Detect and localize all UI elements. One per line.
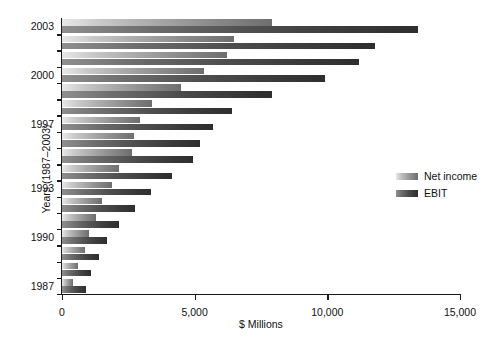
bar-ebit-1987 xyxy=(62,286,86,292)
y-axis-label-1990: 1990 xyxy=(31,231,54,243)
x-tick-15000 xyxy=(460,295,461,300)
y-tick-1988 xyxy=(57,278,62,279)
y-tick-2000 xyxy=(57,83,62,84)
y-axis-label-2000: 2000 xyxy=(31,69,54,81)
y-axis-label-2003: 2003 xyxy=(31,20,54,32)
bar-net-income-1994 xyxy=(62,165,119,171)
x-axis-title: $ Millions xyxy=(62,318,460,330)
y-tick-1994 xyxy=(57,180,62,181)
bar-net-income-2001 xyxy=(62,52,227,58)
legend-label-net-income: Net income xyxy=(424,170,477,182)
bar-ebit-2003 xyxy=(62,26,418,32)
bar-ebit-1988 xyxy=(62,270,91,276)
y-tick-1996 xyxy=(57,148,62,149)
bar-group-1998 xyxy=(62,100,460,114)
bar-group-2003 xyxy=(62,19,460,33)
bar-ebit-1993 xyxy=(62,189,151,195)
bar-ebit-1996 xyxy=(62,140,200,146)
y-tick-2002 xyxy=(57,50,62,51)
y-tick-2003 xyxy=(57,34,62,35)
x-tick-10000 xyxy=(327,295,328,300)
x-axis-label-15000: 15,000 xyxy=(444,306,476,318)
bar-ebit-1992 xyxy=(62,205,135,211)
y-axis-label-1987: 1987 xyxy=(31,280,54,292)
bar-net-income-1993 xyxy=(62,182,112,188)
legend-item-ebit: EBIT xyxy=(396,187,477,199)
bar-net-income-1999 xyxy=(62,84,181,90)
y-axis-label-1997: 1997 xyxy=(31,118,54,130)
bar-net-income-1991 xyxy=(62,214,96,220)
bar-net-income-1990 xyxy=(62,230,89,236)
bar-group-1995 xyxy=(62,149,460,163)
y-tick-2001 xyxy=(57,67,62,68)
bar-group-2000 xyxy=(62,68,460,82)
y-axis-title: Years (1987–2003) xyxy=(40,125,52,214)
bar-ebit-1991 xyxy=(62,221,119,227)
bar-net-income-2003 xyxy=(62,19,272,25)
bar-ebit-1990 xyxy=(62,237,107,243)
bar-ebit-1995 xyxy=(62,156,193,162)
bar-net-income-2002 xyxy=(62,36,234,42)
x-tick-0 xyxy=(62,295,63,300)
bar-group-1987 xyxy=(62,279,460,293)
y-tick-1998 xyxy=(57,115,62,116)
bar-group-2001 xyxy=(62,52,460,66)
plot-area: 200320001997199319901987 05,00010,00015,… xyxy=(62,18,460,294)
bar-ebit-1999 xyxy=(62,91,272,97)
y-tick-1997 xyxy=(57,132,62,133)
bar-ebit-1989 xyxy=(62,254,99,260)
x-axis-line xyxy=(61,294,461,295)
bar-ebit-2002 xyxy=(62,43,375,49)
legend-label-ebit: EBIT xyxy=(424,187,447,199)
y-tick-1991 xyxy=(57,229,62,230)
bar-group-2002 xyxy=(62,36,460,50)
y-tick-1990 xyxy=(57,245,62,246)
x-axis-label-10000: 10,000 xyxy=(311,306,343,318)
net-income-swatch xyxy=(396,173,418,180)
bar-ebit-1994 xyxy=(62,173,172,179)
bar-net-income-1997 xyxy=(62,117,140,123)
legend-item-net-income: Net income xyxy=(396,170,477,182)
bar-ebit-2001 xyxy=(62,59,359,65)
chart-figure: Years (1987–2003) 2003200019971993199019… xyxy=(0,0,490,338)
bar-net-income-1995 xyxy=(62,149,132,155)
bar-net-income-1989 xyxy=(62,247,85,253)
bar-group-1988 xyxy=(62,263,460,277)
bar-group-1997 xyxy=(62,117,460,131)
bar-net-income-1992 xyxy=(62,198,102,204)
ebit-swatch xyxy=(396,190,418,197)
bar-net-income-1996 xyxy=(62,133,134,139)
x-axis-label-0: 0 xyxy=(59,306,65,318)
x-axis-label-5000: 5,000 xyxy=(182,306,208,318)
y-tick-1989 xyxy=(57,262,62,263)
x-tick-5000 xyxy=(195,295,196,300)
y-tick-1993 xyxy=(57,197,62,198)
bar-group-1990 xyxy=(62,230,460,244)
y-tick-1995 xyxy=(57,164,62,165)
bar-ebit-1998 xyxy=(62,108,232,114)
chart-legend: Net incomeEBIT xyxy=(396,170,477,204)
bar-net-income-1998 xyxy=(62,100,152,106)
bar-net-income-1987 xyxy=(62,279,73,285)
y-tick-1992 xyxy=(57,213,62,214)
bar-ebit-2000 xyxy=(62,75,325,81)
bar-group-1996 xyxy=(62,133,460,147)
y-tick-1999 xyxy=(57,99,62,100)
bar-group-1991 xyxy=(62,214,460,228)
bar-group-1999 xyxy=(62,84,460,98)
bar-net-income-1988 xyxy=(62,263,78,269)
y-axis-label-1993: 1993 xyxy=(31,182,54,194)
bar-group-1989 xyxy=(62,247,460,261)
bar-net-income-2000 xyxy=(62,68,204,74)
bar-ebit-1997 xyxy=(62,124,213,130)
